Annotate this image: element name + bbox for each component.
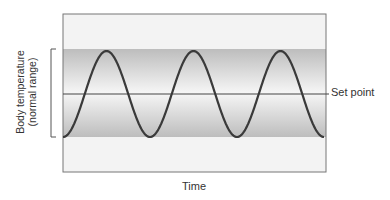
x-axis-label: Time (182, 180, 206, 192)
diagram-canvas (0, 0, 390, 200)
y-axis-label-line1: Body temperature (14, 32, 26, 152)
normal-range-band (63, 49, 326, 137)
range-bracket (51, 49, 56, 137)
set-point-label: Set point (331, 86, 374, 98)
y-axis-label-line2: (normal range) (26, 32, 38, 152)
y-axis-label: Body temperature (normal range) (14, 32, 44, 152)
